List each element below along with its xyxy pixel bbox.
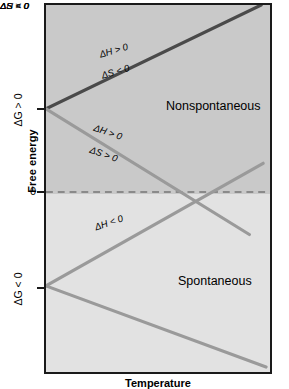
x-axis-title: Temperature: [44, 377, 272, 389]
line-dh-pos-ds-neg: [46, 5, 261, 109]
y-tick-mark-zero: [37, 191, 44, 193]
plot-area: [44, 3, 272, 374]
line-dh-neg-ds-pos: [46, 286, 266, 367]
y-tick-mark-negative: [37, 287, 44, 289]
annotation-line-d-delta-s: ΔS > 0: [0, 0, 29, 11]
region-label-spontaneous: Spontaneous: [178, 274, 252, 288]
y-label-delta-g-negative: ΔG < 0: [12, 259, 24, 319]
y-tick-label-zero: 0: [22, 185, 36, 197]
region-label-nonspontaneous: Nonspontaneous: [166, 99, 261, 113]
line-dh-pos-ds-pos: [46, 109, 249, 235]
free-energy-lines: [46, 5, 270, 372]
y-tick-mark-positive: [37, 108, 44, 110]
y-label-delta-g-positive: ΔG > 0: [12, 80, 24, 140]
